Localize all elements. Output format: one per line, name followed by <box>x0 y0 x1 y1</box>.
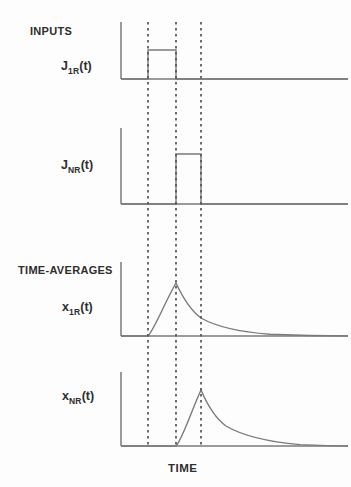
signal-label-xnr-subscript: NR <box>69 396 82 406</box>
signal-label-j1r-base: J <box>61 59 68 73</box>
reference-lines <box>148 22 201 446</box>
panel-j1r-pulse-trace <box>121 50 348 79</box>
signal-label-xnr-base: x <box>62 389 69 403</box>
waveform-plot-svg <box>0 0 351 487</box>
signal-label-jnr-base: J <box>61 158 68 172</box>
signal-timing-figure: INPUTS J1R(t) JNR(t) TIME-AVERAGES x1R(t… <box>0 0 351 487</box>
signal-label-x1r-base: x <box>62 300 69 314</box>
signal-label-xnr-suffix: (t) <box>82 389 95 403</box>
signal-label-xnr: xNR(t) <box>62 389 94 406</box>
panel-xnr-response-trace <box>121 390 348 446</box>
panel-jnr <box>121 128 348 204</box>
signal-label-x1r-subscript: 1R <box>69 307 80 317</box>
panel-xnr <box>121 372 348 446</box>
panel-x1r <box>121 262 348 336</box>
panel-j1r <box>121 22 348 79</box>
x-axis-label: TIME <box>168 462 197 474</box>
signal-label-j1r-subscript: 1R <box>68 66 79 76</box>
panel-x1r-response-trace <box>121 283 348 336</box>
signal-label-x1r-suffix: (t) <box>80 300 93 314</box>
group-label-time-averages: TIME-AVERAGES <box>18 264 113 276</box>
panel-jnr-pulse-trace <box>121 154 348 204</box>
signal-label-jnr-subscript: NR <box>68 165 81 175</box>
signal-label-j1r: J1R(t) <box>61 59 92 76</box>
signal-label-jnr-suffix: (t) <box>81 158 94 172</box>
group-label-inputs: INPUTS <box>30 25 72 37</box>
signal-label-jnr: JNR(t) <box>61 158 93 175</box>
signal-label-x1r: x1R(t) <box>62 300 93 317</box>
signal-label-j1r-suffix: (t) <box>79 59 92 73</box>
